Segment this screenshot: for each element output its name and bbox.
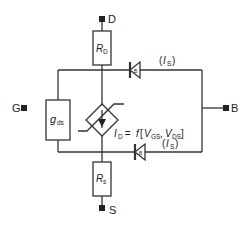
gds-subscript: ds [57, 119, 65, 126]
source-terminal: S [99, 204, 116, 216]
top-current-close: ) [172, 55, 175, 66]
source-resistor: R s [93, 162, 111, 196]
bulk-terminal: B [223, 102, 238, 114]
gds-symbol: g [50, 113, 57, 125]
top-current-symbol: I [163, 55, 166, 66]
drain-resistor: R D [93, 31, 111, 65]
current-source-equation: I D = f [ V GS , V DS ] [114, 128, 184, 140]
bottom-diode-current-label: ( I S ) [162, 138, 178, 150]
eq-equals: = [122, 128, 133, 139]
mosfet-equivalent-circuit: D R D B ( I S ) B G g ds [0, 0, 246, 241]
dependent-current-source [78, 104, 124, 136]
drain-terminal-square [99, 16, 105, 22]
bulk-label: B [231, 102, 238, 114]
drain-label: D [108, 13, 116, 25]
drain-resistor-subscript: D [103, 48, 108, 55]
gate-label: G [12, 102, 21, 114]
top-diode: B [130, 62, 140, 78]
bottom-current-symbol: I [166, 138, 169, 149]
bottom-current-close: ) [175, 138, 178, 149]
source-terminal-square [99, 205, 105, 211]
bottom-diode: B [135, 144, 145, 160]
output-conductance: g ds [46, 100, 70, 140]
eq-close: ] [181, 128, 184, 139]
gate-terminal-square [21, 105, 27, 111]
top-diode-current-label: ( I S ) [159, 55, 175, 67]
eq-open: [ [140, 128, 143, 139]
source-label: S [109, 204, 116, 216]
gate-terminal: G [12, 102, 27, 114]
bulk-terminal-square [223, 105, 229, 111]
eq-lhs-symbol: I [114, 128, 117, 139]
